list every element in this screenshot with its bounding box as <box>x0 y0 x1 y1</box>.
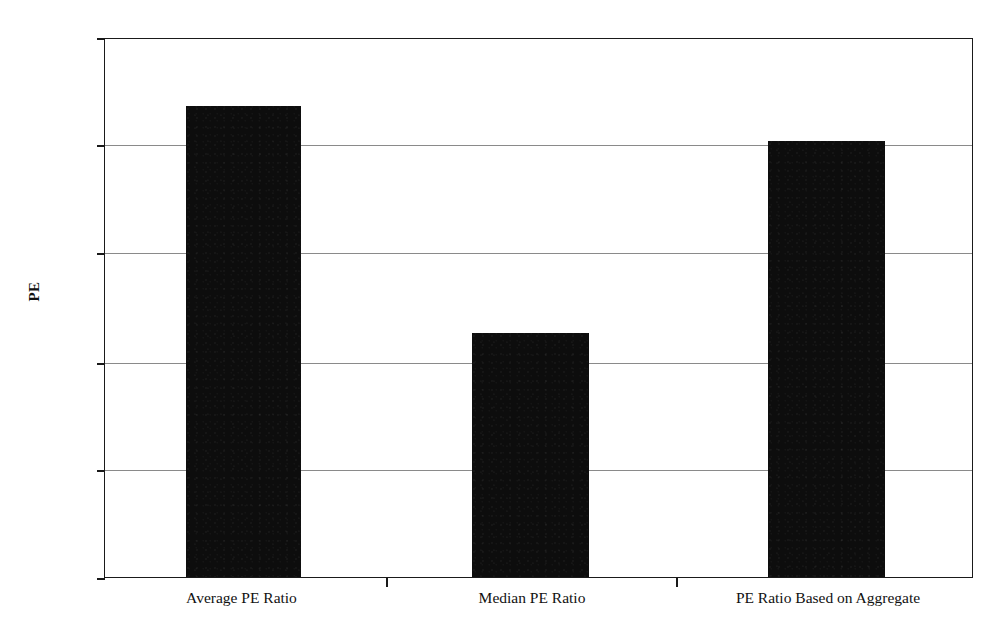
bar-chart-figure: 25.00 20.00 15.00 10.00 5.00 0.00 PE Ave… <box>0 0 1000 630</box>
x-category-label-pe-ratio-based-on-aggregate: PE Ratio Based on Aggregate <box>693 589 963 606</box>
x-separator-tick-1 <box>386 578 388 587</box>
bar-average-pe-ratio <box>186 106 301 577</box>
y-tick-mark-0 <box>97 578 105 580</box>
plot-area <box>104 38 973 578</box>
x-separator-tick-2 <box>676 578 678 587</box>
bar-pe-ratio-based-on-aggregate <box>768 141 885 577</box>
y-axis-title: PE <box>26 272 43 312</box>
x-category-label-median-pe-ratio: Median PE Ratio <box>427 589 637 606</box>
bar-median-pe-ratio <box>472 333 589 577</box>
x-category-label-average-pe-ratio: Average PE Ratio <box>134 589 349 606</box>
